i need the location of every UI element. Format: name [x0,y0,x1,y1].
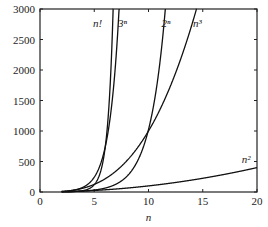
y-tick-label: 1500 [13,95,36,107]
x-axis-label: n [146,211,152,223]
plot-frame [40,9,257,192]
y-tick-label: 1000 [13,125,36,137]
y-tick-label: 3000 [13,3,36,15]
y-tick-label: 2000 [13,64,36,76]
growth-functions-chart: 05101520050010001500200025003000n n!3ⁿ2ⁿ… [0,0,268,227]
curve-label: n! [93,17,103,29]
curve-label: n³ [193,17,203,29]
y-tick-label: 0 [30,186,36,198]
x-tick-label: 5 [92,195,98,207]
curves [62,9,257,192]
x-tick-label: 10 [143,195,155,207]
y-tick-label: 500 [19,156,36,168]
x-tick-label: 20 [252,195,264,207]
curve-n-3 [62,9,197,192]
x-tick-label: 0 [37,195,43,207]
y-tick-label: 2500 [13,34,36,46]
curve-3-n [62,9,119,191]
axes: 05101520050010001500200025003000n [13,3,263,223]
curve-label: n² [242,153,252,165]
x-tick-label: 15 [197,195,209,207]
curve-label: 2ⁿ [161,17,171,29]
curve-label: 3ⁿ [117,17,128,29]
curve-2-n [62,9,166,192]
curve-n- [62,9,114,192]
